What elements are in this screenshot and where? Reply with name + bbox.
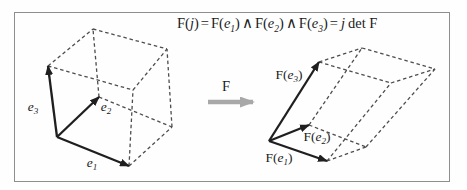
basis-cube-edge-BF [129, 90, 133, 166]
formula-part: ) [194, 15, 199, 31]
Fe1-label: F(e1) [265, 151, 292, 167]
e3-label-sub: 3 [34, 106, 39, 116]
formula-part: ) [323, 15, 328, 31]
formula-part: = [330, 15, 338, 31]
formula-part: det F [348, 15, 377, 31]
basis-cube-edge-CG [93, 29, 99, 97]
e1-label: e1 [87, 156, 98, 172]
figure-canvas: F(j)=F(e1)∧F(e2)∧F(e3)=jdet F e3 e2 e1 F… [0, 0, 467, 190]
basis-cube-edge-EH [167, 49, 172, 127]
e2-vector [57, 97, 99, 137]
basis-cube [48, 29, 172, 166]
Fe3-label-pre: F( [275, 67, 287, 82]
formula-part: F( [177, 15, 190, 31]
e1-label-sub: 1 [93, 162, 98, 172]
image-parallelepiped-edge-EH [366, 69, 435, 147]
e3-vector [48, 66, 57, 137]
determinant-formula: F(j)=F(e1)∧F(e2)∧F(e3)=jdet F [177, 15, 377, 34]
formula-part: F( [255, 15, 268, 31]
Fe2-label: F(e2) [303, 130, 330, 146]
image-parallelepiped [269, 48, 435, 161]
wedge-operator: ∧ [242, 15, 253, 31]
Fe3-label: F(e3) [275, 68, 302, 84]
basis-cube-edge-DF [48, 66, 133, 90]
image-parallelepiped-edge-DG [319, 48, 362, 62]
formula-part: F( [299, 15, 312, 31]
Fe3-label-post: ) [298, 67, 303, 82]
image-parallelepiped-edge-DF [319, 62, 391, 83]
Fe2-label-pre: F( [303, 129, 315, 144]
Fe2-label-post: ) [326, 129, 331, 144]
formula-part: ) [279, 15, 284, 31]
transform-F-label: F [222, 79, 230, 94]
formula-part: j [341, 15, 345, 31]
image-parallelepiped-edge-GH [362, 48, 435, 69]
Fe1-label-post: ) [288, 150, 293, 165]
image-parallelepiped-edge-CG [309, 48, 362, 125]
formula-part: = [201, 15, 209, 31]
basis-cube-edge-GH [93, 29, 167, 49]
e2-label-sub: 2 [107, 106, 112, 116]
e2-label: e2 [101, 100, 112, 116]
formula-part: F( [211, 15, 224, 31]
basis-cube-edge-DG [48, 29, 93, 66]
Fe1-label-pre: F( [265, 150, 277, 165]
formula-part: ) [235, 15, 240, 31]
basis-cube-edge-FH [133, 49, 167, 90]
e3-label: e3 [28, 100, 39, 116]
wedge-operator: ∧ [286, 15, 297, 31]
basis-cube-edge-BE [129, 127, 172, 166]
